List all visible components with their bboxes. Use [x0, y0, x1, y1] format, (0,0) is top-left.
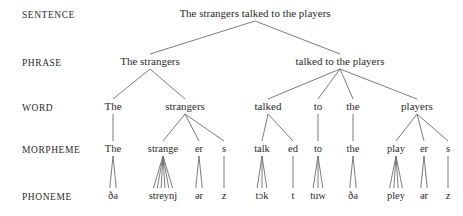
edge-w3-to-m6: [268, 114, 293, 141]
edge-p1-to-w1: [113, 69, 150, 99]
phoneme-node-f7: tuw: [310, 190, 326, 201]
phrase-node-p1: The strangers: [120, 55, 180, 67]
phoneme-node-f4: z: [222, 190, 227, 201]
phoneme-node-f11: z: [446, 190, 451, 201]
edge-m8-to-f8-strand-0: [350, 156, 353, 188]
sentence-node-s1: The strangers talked to the players: [179, 7, 330, 19]
edge-m1-to-f1-strand-0: [110, 156, 113, 188]
morpheme-node-m10: er: [420, 143, 429, 154]
edge-m1-to-f1-strand-1: [113, 156, 116, 188]
morpheme-node-m6: ed: [288, 143, 299, 154]
morpheme-node-m2: strange: [148, 143, 179, 154]
edge-w2-to-m3: [185, 114, 199, 141]
edge-m5-to-f5-strand-2: [262, 156, 267, 188]
phoneme-node-f10: ər: [420, 190, 429, 201]
edge-m3-to-f3-strand-0: [196, 156, 199, 188]
edge-m10-to-f10-strand-0: [421, 156, 424, 188]
word-node-w4: to: [314, 100, 323, 112]
tree-diagram: The strangers talked to the playersThe s…: [0, 0, 463, 216]
morpheme-node-m1: The: [105, 143, 122, 154]
edge-m7-to-f7-strand-2: [318, 156, 323, 188]
morpheme-node-m4: s: [222, 143, 226, 154]
phrase-node-p2: talked to the players: [296, 55, 385, 67]
word-node-w2: strangers: [165, 100, 205, 112]
edge-m3-to-f3-strand-1: [199, 156, 202, 188]
morpheme-node-m8: the: [347, 143, 360, 154]
morpheme-node-m11: s: [446, 143, 450, 154]
edge-p2-to-w6: [340, 69, 417, 99]
word-node-w1: The: [104, 100, 121, 112]
edge-m8-to-f8-strand-1: [353, 156, 356, 188]
edge-m7-to-f7-strand-0: [313, 156, 318, 188]
edge-w2-to-m4: [185, 114, 224, 141]
linguistic-hierarchy-figure: SENTENCEPHRASEWORDMORPHEMEPHONEME The st…: [0, 0, 463, 216]
phoneme-node-f3: ər: [195, 190, 204, 201]
phoneme-node-f1: ðə: [108, 190, 118, 201]
phoneme-node-f8: ðə: [348, 190, 358, 201]
edge-m10-to-f10-strand-1: [424, 156, 427, 188]
phoneme-node-f5: tɔk: [256, 190, 270, 201]
edge-w6-to-m11: [417, 114, 448, 141]
morpheme-node-m7: to: [314, 143, 322, 154]
edge-w6-to-m10: [417, 114, 424, 141]
morpheme-node-m5: talk: [254, 143, 270, 154]
phoneme-node-f2: streynj: [149, 190, 178, 201]
edge-m5-to-f5-strand-0: [257, 156, 262, 188]
phoneme-node-f6: t: [292, 190, 295, 201]
word-node-w3: talked: [255, 100, 282, 112]
edge-s1-to-p1: [150, 21, 255, 54]
edge-s1-to-p2: [255, 21, 340, 54]
edge-w2-to-m2: [163, 114, 185, 141]
morpheme-node-m3: er: [195, 143, 204, 154]
morpheme-node-m9: play: [387, 143, 406, 154]
edge-p1-to-w2: [150, 69, 185, 99]
edge-w6-to-m9: [396, 114, 417, 141]
word-node-w6: players: [401, 100, 433, 112]
word-node-w5: the: [346, 100, 360, 112]
phoneme-node-f9: pley: [387, 190, 406, 201]
edge-w3-to-m5: [262, 114, 268, 141]
